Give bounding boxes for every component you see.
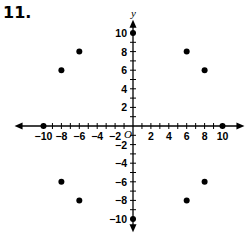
y-axis-down-arrow-icon xyxy=(130,224,137,232)
axes xyxy=(15,20,245,233)
y-tick-label: 6 xyxy=(121,64,127,76)
y-tick-label: 10 xyxy=(115,27,127,39)
y-tick-label: 8 xyxy=(121,46,127,58)
x-tick-label: −6 xyxy=(73,130,85,142)
y-tick-label: −2 xyxy=(115,139,127,151)
x-axis-left-arrow-icon xyxy=(15,123,23,130)
x-tick-label: −10 xyxy=(35,130,53,142)
x-tick-label: 4 xyxy=(166,130,172,142)
x-tick-label: 8 xyxy=(202,130,208,142)
data-point xyxy=(58,179,64,185)
data-point xyxy=(130,30,136,36)
x-tick-label: −8 xyxy=(55,130,67,142)
data-point xyxy=(220,123,226,129)
x-tick-label: −4 xyxy=(91,130,103,142)
data-point xyxy=(130,216,136,222)
x-axis-label: x xyxy=(246,120,247,132)
y-tick-label: −8 xyxy=(115,194,127,206)
coordinate-plane: −10−8−6−4−2246810108642−2−4−6−8−10Oxy xyxy=(0,0,247,236)
y-tick-label: −6 xyxy=(115,176,127,188)
y-tick-label: −4 xyxy=(115,157,127,169)
tick-labels: −10−8−6−4−2246810108642−2−4−6−8−10Oxy xyxy=(35,7,247,225)
x-tick-label: 2 xyxy=(148,130,154,142)
data-point xyxy=(76,49,82,55)
y-tick-label: 4 xyxy=(121,83,127,95)
data-point xyxy=(41,123,47,129)
origin-label: O xyxy=(124,128,132,140)
x-axis-right-arrow-icon xyxy=(236,123,244,130)
data-point xyxy=(202,179,208,185)
data-point xyxy=(184,197,190,203)
data-point xyxy=(76,197,82,203)
data-point xyxy=(58,67,64,73)
data-point xyxy=(184,49,190,55)
data-point xyxy=(202,67,208,73)
y-axis-label: y xyxy=(130,7,136,19)
y-tick-label: 2 xyxy=(121,101,127,113)
x-tick-label: 6 xyxy=(184,130,190,142)
y-axis-up-arrow-icon xyxy=(130,20,137,28)
x-tick-label: 10 xyxy=(217,130,229,142)
y-tick-label: −10 xyxy=(109,213,127,225)
